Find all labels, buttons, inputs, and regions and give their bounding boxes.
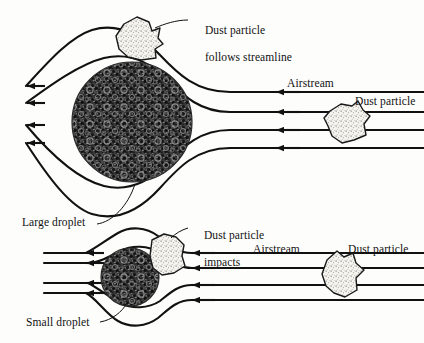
label-line-1: Dust particle (205, 24, 265, 36)
dust-particle-incoming-bottom (322, 251, 364, 297)
dust-particle-deflected (116, 17, 163, 60)
label-dust-particle-follows-streamline: Dust particle follows streamline (193, 10, 292, 78)
label-small-droplet: Small droplet (26, 316, 90, 330)
leader-large-droplet (97, 184, 135, 224)
label-large-droplet: Large droplet (22, 216, 85, 230)
large-droplet (72, 62, 192, 182)
leader-top-particle (155, 20, 188, 28)
label-airstream-top: Airstream (287, 77, 334, 91)
label-line-2: impacts (204, 256, 240, 268)
label-line-1: Dust particle (204, 229, 264, 241)
streamline-4 (44, 293, 424, 326)
dust-particle-impacting (150, 234, 185, 275)
label-airstream-bottom: Airstream (253, 243, 300, 257)
streamline-3 (44, 283, 424, 307)
figure-dust-particle-capture: Dust particle follows streamline Airstre… (0, 0, 424, 343)
label-line-2: follows streamline (205, 51, 292, 63)
label-dust-particle-bottom-right: Dust particle (348, 243, 408, 257)
label-dust-particle-top-right: Dust particle (355, 95, 415, 109)
